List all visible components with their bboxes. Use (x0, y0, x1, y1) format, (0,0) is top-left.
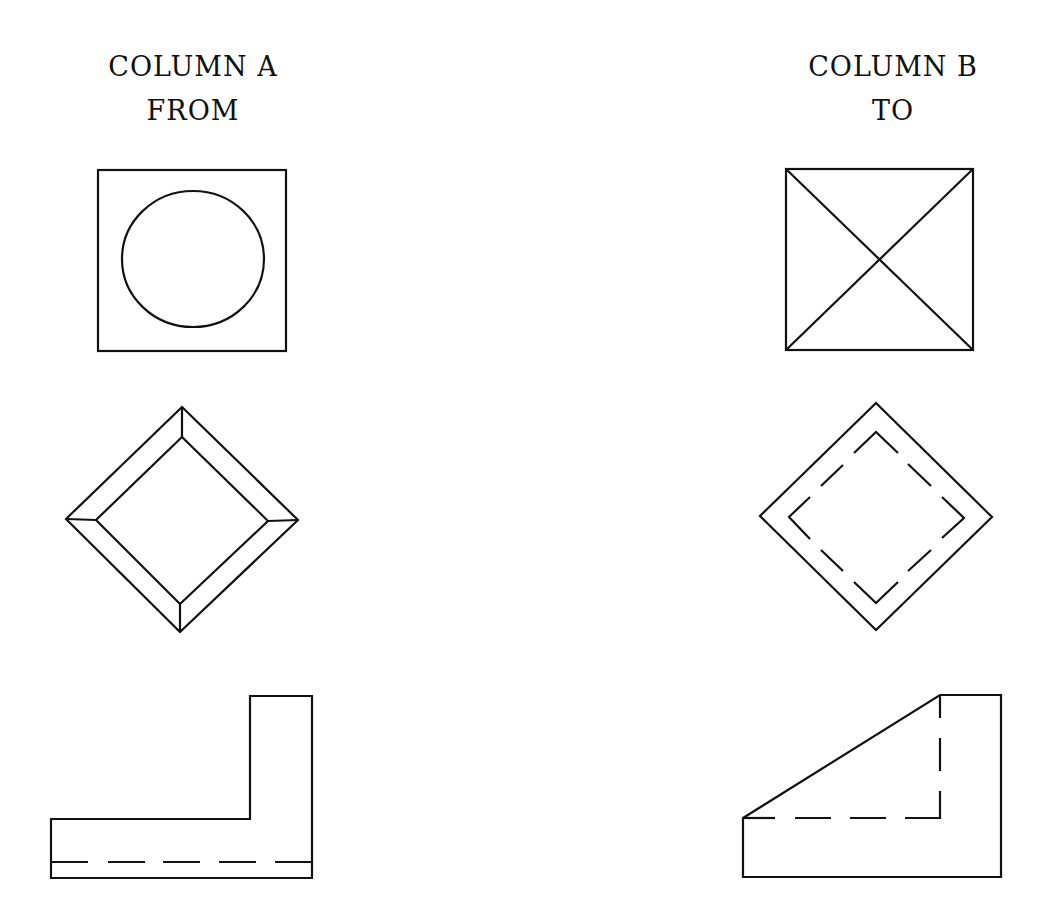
square-outline (98, 170, 286, 351)
circle (122, 191, 264, 327)
outer-diamond (66, 407, 298, 632)
figure-a2-beveled-diamond (66, 407, 298, 632)
inner-diamond (96, 437, 268, 604)
drawing-canvas (0, 0, 1053, 923)
hidden-inner-diamond (789, 432, 964, 603)
figure-b2-diamond-hidden-lines (760, 403, 992, 630)
corner-edge (268, 520, 298, 521)
figure-a1-square-with-circle (98, 170, 286, 351)
figure-a3-l-bracket (51, 696, 312, 878)
sloped-profile-outline (743, 695, 1001, 877)
l-profile-outline (51, 696, 312, 878)
figure-b3-sloped-block (743, 695, 1001, 877)
figure-b1-square-with-diagonals (786, 169, 973, 350)
outer-diamond (760, 403, 992, 630)
corner-edge (66, 519, 96, 520)
